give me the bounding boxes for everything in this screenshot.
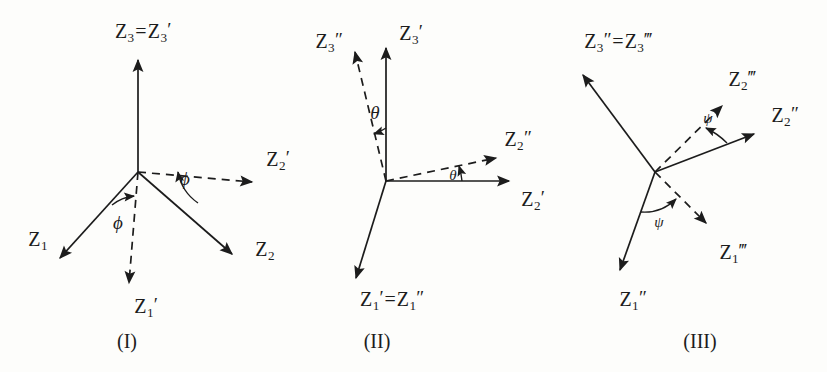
- label-z1-prime-equals-z1-dprime: Z1′=Z1″: [360, 288, 424, 312]
- angle-arc-psi-upper: [706, 128, 727, 143]
- label-z1-prime: Z1′: [134, 295, 157, 319]
- axis-z2-dprime-line-3: [655, 134, 754, 172]
- axis-z3-dprime-equals-z3-tprime-line: [583, 75, 655, 172]
- label-z2-prime-2: Z2′: [521, 188, 544, 212]
- axis-z2-prime-line: [138, 172, 252, 182]
- axis-z1-prime-equals-z1-dprime-line: [356, 181, 386, 278]
- label-z3-dprime-equals-z3-tprime: Z3″=Z3‴: [584, 30, 652, 54]
- caption-panel-1: (I): [117, 331, 137, 351]
- label-z3-prime: Z3′: [399, 22, 422, 46]
- angle-label-phi-left: ϕ: [113, 213, 123, 232]
- caption-panel-2: (II): [364, 331, 391, 351]
- label-z1-dprime: Z1″: [619, 288, 646, 312]
- angle-label-phi-right: ϕ: [180, 169, 190, 188]
- angle-arc-theta-lower: [459, 166, 462, 181]
- angle-label-psi-lower: ψ: [654, 215, 663, 230]
- label-z2-tprime: Z2‴: [728, 68, 755, 92]
- panel-2-vectors: [355, 48, 509, 278]
- figure-vector-layer: [0, 0, 827, 372]
- label-z2-dprime-3: Z2″: [771, 104, 798, 128]
- label-z2: Z2: [255, 239, 274, 262]
- panel-1-vectors: [60, 60, 252, 283]
- label-z3-dprime: Z3″: [315, 30, 342, 54]
- angle-label-psi-upper: ψ: [703, 111, 712, 126]
- caption-panel-3: (III): [683, 331, 716, 351]
- axis-z1-dprime-line: [620, 172, 655, 270]
- label-z1-tprime: Z1‴: [719, 241, 746, 265]
- angle-arc-theta-upper: [374, 128, 386, 134]
- label-z2-prime: Z2′: [266, 148, 289, 172]
- label-z2-dprime: Z2″: [504, 128, 531, 152]
- label-z3-equals-z3prime: Z3=Z3′: [115, 20, 171, 44]
- axis-z1-prime-line: [129, 172, 138, 283]
- angle-label-theta-upper: θ: [370, 103, 379, 122]
- axis-z2-dprime-line: [386, 158, 496, 181]
- angle-arc-psi-lower: [641, 199, 676, 212]
- angle-label-theta-lower: θ: [449, 168, 456, 183]
- label-z1: Z1: [28, 229, 47, 252]
- euler-rotation-figure: Z3=Z3′ Z1 Z2 Z1′ Z2′ ϕ ϕ (I) Z3′ Z2′ Z1′…: [0, 0, 827, 372]
- axis-z1-line: [60, 172, 138, 258]
